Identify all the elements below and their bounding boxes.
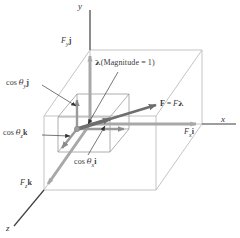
label-lambda-text: (Magnitude = 1) [101, 58, 155, 67]
outer-box-front-face [44, 116, 156, 190]
leader-line-cos-theta-x [88, 126, 105, 155]
label-cos-x-cos: cos [74, 157, 85, 166]
label-cos-z-cos: cos [3, 128, 14, 137]
label-force-equals: = [167, 99, 172, 108]
axis-z-line [14, 190, 44, 226]
label-cos-z-unit: k [23, 128, 28, 137]
outer-box-connecting-edges [44, 50, 202, 190]
force-component-z-arrow [48, 124, 90, 184]
label-cos-x-unit: i [94, 157, 96, 166]
label-lambda-magnitude: λ(Magnitude = 1) [95, 58, 155, 67]
label-force-lambda: λ [178, 98, 184, 108]
label-direction-cosine-z: cos θzk [3, 129, 28, 139]
axis-label-x: x [221, 115, 225, 124]
label-cos-y-cos: cos [6, 78, 17, 87]
label-force-component-y: Fyj [61, 37, 72, 47]
leader-line-cos-theta-y [42, 85, 76, 106]
axis-label-z: z [6, 224, 10, 233]
figure-canvas [0, 0, 240, 238]
label-fy-unit: j [69, 36, 72, 45]
label-force-vector: F = Fλ [160, 99, 184, 108]
leader-line-cos-theta-z [42, 135, 70, 136]
axis-label-y: y [78, 2, 82, 11]
label-force-bold-f: F [160, 99, 165, 108]
label-force-component-z: Fzk [20, 179, 32, 189]
vector-decomposition-figure: y x z Fyj Fxi Fzk cos θyj cos θzk cos θx… [0, 0, 240, 238]
label-force-component-x: Fxi [184, 128, 194, 138]
origin-point [74, 126, 79, 131]
label-direction-cosine-x: cos θxi [74, 158, 97, 168]
label-cos-y-unit: j [26, 78, 29, 87]
label-direction-cosine-y: cos θyj [6, 79, 29, 89]
label-fx-unit: i [192, 127, 194, 136]
label-fz-unit: k [27, 178, 32, 187]
